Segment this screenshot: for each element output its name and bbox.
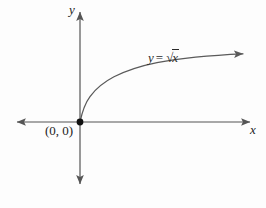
axes-group (17, 12, 250, 184)
equation-relation: = (154, 50, 165, 65)
origin-coordinate-label: (0, 0) (45, 124, 73, 137)
curve-equation-label: y=√x (148, 51, 179, 64)
equation-lhs: y (148, 50, 154, 65)
radical-expression: √x (165, 51, 179, 64)
origin-point-marker (77, 119, 84, 126)
x-axis-label: x (250, 123, 256, 136)
figure-container: y x (0, 0) y=√x (0, 0, 266, 208)
y-axis-label: y (69, 3, 75, 16)
radicand: x (172, 49, 179, 65)
coordinate-plane (0, 0, 266, 208)
